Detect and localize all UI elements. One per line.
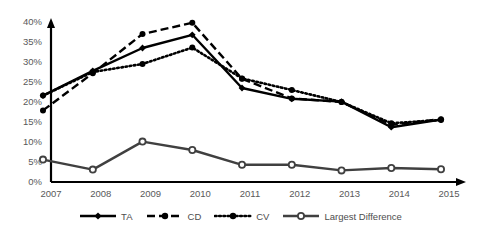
- legend-label: CD: [188, 211, 202, 222]
- legend-marker-icon: [282, 210, 320, 222]
- y-tick-label: 10%: [12, 136, 42, 147]
- legend-label: CV: [256, 211, 269, 222]
- data-point: [40, 107, 46, 113]
- y-tick-label: 25%: [12, 76, 42, 87]
- data-point: [438, 117, 444, 123]
- chart-plot-area: [0, 0, 481, 243]
- y-axis-arrow-icon: [47, 18, 55, 28]
- y-tick-label: 15%: [12, 116, 42, 127]
- chart-legend: TACDCVLargest Difference: [0, 210, 481, 222]
- data-point: [140, 31, 146, 37]
- y-tick-label: 40%: [12, 16, 42, 27]
- series-largest-difference: [40, 139, 444, 174]
- y-tick-label: 30%: [12, 56, 42, 67]
- legend-label: Largest Difference: [324, 211, 401, 222]
- legend-item-ta[interactable]: TA: [79, 210, 132, 222]
- data-point: [438, 166, 444, 172]
- legend-label: TA: [121, 211, 132, 222]
- legend-marker-icon: [214, 210, 252, 222]
- legend-item-cv[interactable]: CV: [214, 210, 269, 222]
- x-tick-label: 2009: [129, 188, 173, 199]
- data-point: [90, 167, 96, 173]
- legend-marker-icon: [146, 210, 184, 222]
- y-tick-label: 20%: [12, 96, 42, 107]
- y-tick-label: 35%: [12, 36, 42, 47]
- data-point: [289, 87, 295, 93]
- data-point: [388, 165, 394, 171]
- line-chart: 0%5%10%15%20%25%30%35%40% 20072008200920…: [0, 0, 481, 243]
- x-axis-arrow-icon: [456, 178, 466, 186]
- data-point: [388, 120, 394, 126]
- legend-item-largest-difference[interactable]: Largest Difference: [282, 210, 401, 222]
- data-point: [189, 45, 195, 51]
- data-point: [289, 162, 295, 168]
- legend-marker-icon: [79, 210, 117, 222]
- y-tick-label: 5%: [12, 156, 42, 167]
- data-point: [189, 147, 195, 153]
- x-tick-label: 2015: [427, 188, 471, 199]
- data-point: [90, 69, 96, 75]
- data-point: [140, 61, 146, 67]
- series-line: [43, 23, 441, 125]
- data-point: [289, 95, 295, 101]
- x-tick-label: 2012: [278, 188, 322, 199]
- data-point: [339, 99, 345, 105]
- data-point: [239, 162, 245, 168]
- x-tick-label: 2014: [377, 188, 421, 199]
- data-point: [139, 139, 145, 145]
- x-tick-label: 2007: [29, 188, 73, 199]
- x-tick-label: 2013: [328, 188, 372, 199]
- x-tick-label: 2010: [178, 188, 222, 199]
- series-cd: [40, 20, 444, 128]
- x-tick-label: 2008: [79, 188, 123, 199]
- data-point: [239, 75, 245, 81]
- data-series-group: [40, 20, 445, 174]
- data-point: [189, 20, 195, 26]
- legend-item-cd[interactable]: CD: [146, 210, 202, 222]
- x-tick-label: 2011: [228, 188, 272, 199]
- data-point: [338, 167, 344, 173]
- y-tick-label: 0%: [12, 176, 42, 187]
